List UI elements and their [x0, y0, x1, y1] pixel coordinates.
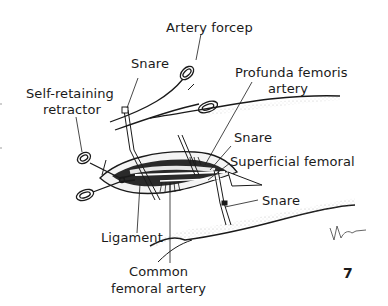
- artist-signature: [330, 226, 366, 240]
- surgical-illustration: [0, 0, 388, 306]
- label-femoral-artery: femoral artery: [111, 282, 206, 296]
- label-common: Common: [129, 265, 188, 279]
- label-artery-forcep: Artery forcep: [166, 21, 253, 35]
- label-self-retaining: Self-retaining: [26, 87, 114, 101]
- label-snare-top: Snare: [131, 57, 169, 71]
- figure-number: 7: [343, 265, 353, 281]
- artery-forcep: [110, 64, 219, 130]
- label-ligament: Ligament: [101, 231, 163, 245]
- label-profunda-femoris: Profunda femoris: [235, 66, 348, 80]
- edge-artifacts: [0, 103, 2, 149]
- label-superficial-femoral: Superficial femoral: [230, 155, 355, 169]
- label-snare-mid: Snare: [234, 131, 272, 145]
- label-retractor: retractor: [43, 103, 101, 117]
- label-profunda-artery: artery: [268, 82, 308, 96]
- label-snare-low: Snare: [262, 194, 300, 208]
